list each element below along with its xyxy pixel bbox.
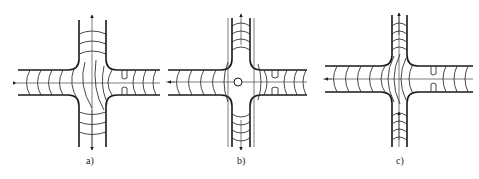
pipe-junction-figure [0,0,479,179]
panel-c-diagram [323,13,473,147]
panel-label-c: c) [396,155,404,166]
panel-label-a: a) [86,155,94,166]
panel-label-b: b) [237,155,245,166]
panel-a-diagram [16,15,160,150]
panel-b-diagram [166,14,307,150]
